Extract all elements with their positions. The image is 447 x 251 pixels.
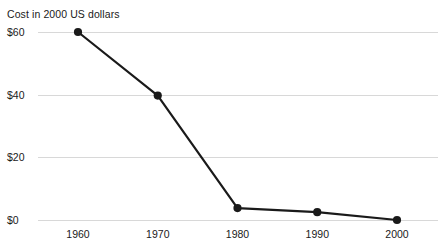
chart-plot-area — [0, 0, 447, 251]
data-point-marker[interactable] — [154, 92, 162, 100]
x-axis-tick-label: 1990 — [306, 228, 329, 240]
data-point-marker[interactable] — [393, 216, 401, 224]
data-point-marker[interactable] — [74, 28, 82, 36]
x-axis-tick-label: 1980 — [226, 228, 249, 240]
series-markers-cost — [74, 28, 401, 224]
data-point-marker[interactable] — [313, 208, 321, 216]
data-point-marker[interactable] — [233, 204, 241, 212]
x-axis-tick-label: 2000 — [385, 228, 408, 240]
line-chart: Cost in 2000 US dollars $0$20$40$60 1960… — [0, 0, 447, 251]
y-axis-tick-label: $40 — [7, 89, 25, 101]
y-axis-tick-label: $0 — [7, 214, 19, 226]
y-axis-tick-label: $60 — [7, 26, 25, 38]
x-axis-tick-label: 1960 — [66, 228, 89, 240]
gridlines — [38, 33, 438, 221]
x-axis-tick-label: 1970 — [146, 228, 169, 240]
data-line — [78, 32, 397, 220]
series-line-cost — [78, 32, 397, 220]
y-axis-tick-label: $20 — [7, 151, 25, 163]
